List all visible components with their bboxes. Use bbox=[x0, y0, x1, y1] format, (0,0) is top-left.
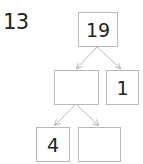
middle-right-box: 1 bbox=[106, 70, 139, 105]
root-value: 19 bbox=[86, 19, 110, 41]
middle-right-value: 1 bbox=[116, 77, 128, 99]
bottom-left-value: 4 bbox=[47, 134, 59, 156]
root-box: 19 bbox=[78, 12, 118, 47]
middle-left-box[interactable] bbox=[54, 70, 99, 105]
bottom-right-box[interactable] bbox=[78, 127, 121, 162]
bottom-left-box: 4 bbox=[36, 127, 70, 162]
